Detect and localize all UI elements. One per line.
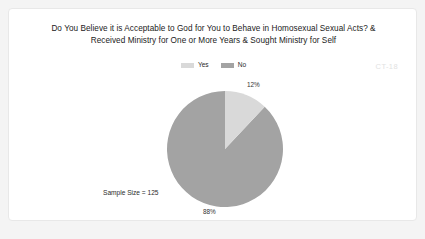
- pie-chart-area: 12% 88% Sample Size = 125: [9, 9, 417, 221]
- pie-label-yes: 12%: [247, 81, 260, 88]
- sample-size-annotation: Sample Size = 125: [103, 189, 159, 196]
- slide-card: Do You Believe it is Acceptable to God f…: [8, 8, 417, 221]
- pie-label-no: 88%: [203, 208, 216, 215]
- pie-chart: [151, 85, 299, 213]
- pie-slices: [167, 91, 283, 207]
